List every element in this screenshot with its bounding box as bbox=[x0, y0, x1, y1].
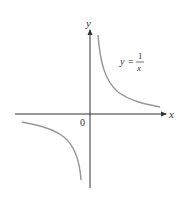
svg-text:x: x bbox=[136, 63, 141, 73]
equation-label: y = 1 x bbox=[119, 51, 144, 73]
svg-text:y: y bbox=[119, 56, 125, 67]
svg-text:1: 1 bbox=[138, 51, 143, 61]
y-axis-label: y bbox=[85, 17, 91, 29]
x-axis-label: x bbox=[168, 108, 174, 120]
curve-branch-negative bbox=[22, 122, 81, 180]
origin-label: 0 bbox=[80, 117, 85, 128]
reciprocal-function-graph: y x 0 y = 1 x bbox=[0, 0, 181, 199]
curve-branch-positive bbox=[98, 35, 160, 107]
svg-text:=: = bbox=[128, 56, 134, 67]
